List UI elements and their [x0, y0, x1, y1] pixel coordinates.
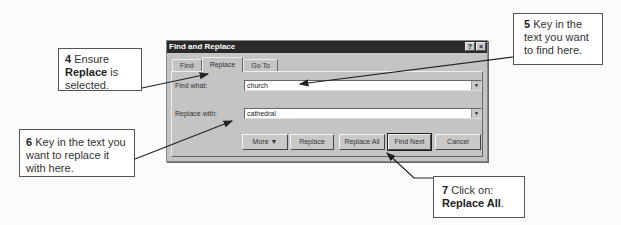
tab-replace[interactable]: Replace [202, 57, 244, 72]
arrow-step-7 [387, 153, 433, 178]
arrow-step-4 [142, 74, 208, 88]
arrow-step-6 [135, 121, 232, 159]
callout-arrows [0, 0, 621, 225]
arrow-step-5 [300, 57, 513, 84]
